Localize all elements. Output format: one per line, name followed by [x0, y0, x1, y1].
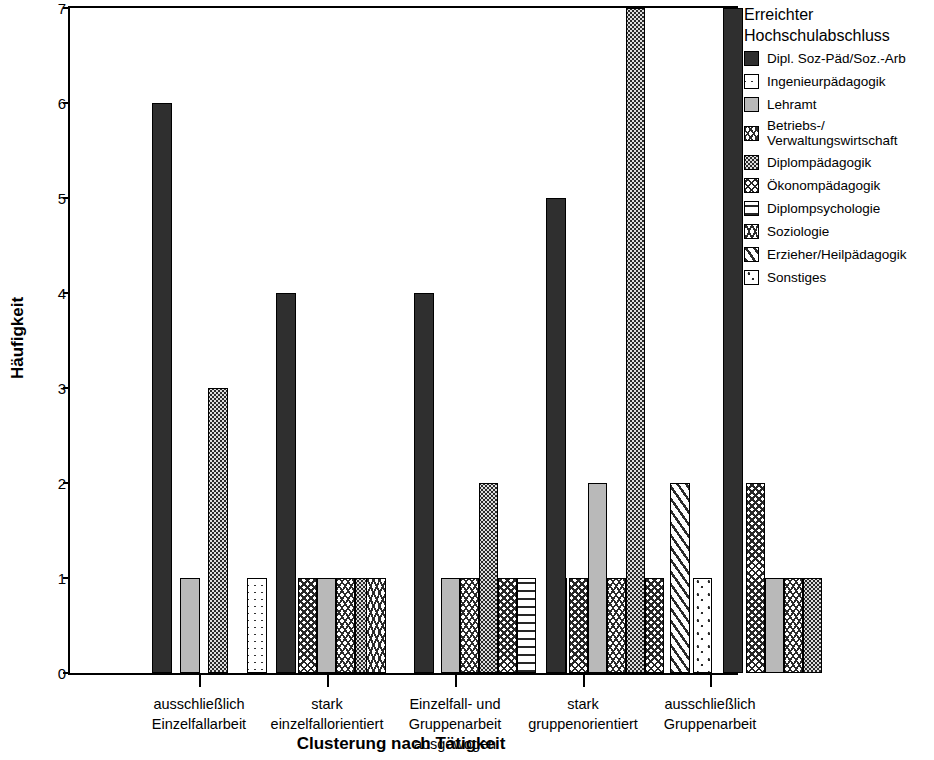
legend-item-sonstiges[interactable]: Sonstiges — [744, 268, 930, 286]
x-tick-mark — [455, 673, 457, 687]
y-tick-mark — [63, 672, 70, 674]
y-tick-label: 5 — [36, 191, 66, 206]
y-tick-label: 7 — [36, 1, 66, 16]
legend-swatch-icon-lehramt — [744, 97, 759, 112]
legend-label: Diplompädagogik — [767, 155, 871, 170]
y-tick-mark — [63, 7, 70, 9]
bar-diplompsychologie-g2 — [517, 578, 536, 673]
bar-betriebs_verwaltung-g1 — [336, 578, 355, 673]
bar-lehramt-g1 — [317, 578, 336, 673]
legend-entries: Dipl. Soz-Päd/Soz.-ArbIngenieurpädagogik… — [744, 49, 930, 286]
legend-label: Ökonompädagogik — [767, 178, 880, 193]
chart-root: 01234567 ausschließlich Einzelfallarbeit… — [0, 0, 934, 760]
legend-label: Lehramt — [767, 97, 817, 112]
legend-item-ingenieurpaedagogik[interactable]: Ingenieurpädagogik — [744, 72, 930, 90]
y-tick-mark — [63, 197, 70, 199]
legend-swatch-icon-diplompaedagogik — [744, 155, 759, 170]
y-tick-label: 2 — [36, 476, 66, 491]
legend-title: Erreichter Hochschulabschluss — [744, 4, 930, 46]
bar-betriebs_verwaltung-g3 — [607, 578, 626, 673]
legend-swatch-icon-soziologie — [744, 224, 759, 239]
y-tick-mark — [63, 102, 70, 104]
bar-lehramt-g4 — [765, 578, 784, 673]
bar-diplompaedagogik-g0 — [208, 388, 228, 673]
bar-dipl_soz_paed-g1 — [276, 293, 296, 673]
bar-betriebs_verwaltung-g2 — [460, 578, 479, 673]
bar-dipl_soz_paed-g4 — [723, 8, 743, 673]
legend-label: Erzieher/Heilpädagogik — [767, 247, 907, 262]
bar-lehramt-g2 — [441, 578, 460, 673]
legend-swatch-icon-sonstiges — [744, 270, 759, 285]
bar-oekonompaedagogik-g3 — [569, 578, 588, 673]
plot-area: 01234567 ausschließlich Einzelfallarbeit… — [70, 8, 736, 673]
legend-item-betriebs_verwaltung[interactable]: Betriebs-/ Verwaltungswirtschaft — [744, 118, 930, 148]
y-tick-label: 1 — [36, 571, 66, 586]
bar-betriebs_verwaltung-g4 — [784, 578, 803, 673]
x-axis-label: Clusterung nach Tätigkeit — [297, 734, 506, 754]
y-tick-mark — [63, 482, 70, 484]
legend-item-oekonompaedagogik[interactable]: Ökonompädagogik — [744, 176, 930, 194]
legend-label: Diplompsychologie — [767, 201, 880, 216]
legend-swatch-icon-diplompsychologie — [744, 201, 759, 216]
bar-diplompaedagogik-g3 — [626, 8, 645, 673]
legend-swatch-icon-oekonompaedagogik — [744, 178, 759, 193]
y-tick-mark — [63, 577, 70, 579]
bar-sonstiges-g3 — [693, 578, 712, 673]
legend-item-lehramt[interactable]: Lehramt — [744, 95, 930, 113]
bar-dipl_soz_paed-g0 — [152, 103, 172, 673]
x-tick-mark — [327, 673, 329, 687]
bar-oekonompaedagogik-g1 — [298, 578, 317, 673]
legend-label: Soziologie — [767, 224, 829, 239]
bar-oekonompaedagogik-g4 — [746, 483, 765, 673]
legend-swatch-icon-dipl_soz_paed — [744, 51, 759, 66]
legend-label: Dipl. Soz-Päd/Soz.-Arb — [767, 51, 906, 66]
legend-item-erzieher_heilpaedagogik[interactable]: Erzieher/Heilpädagogik — [744, 245, 930, 263]
x-tick-mark — [583, 673, 585, 687]
legend-swatch-icon-erzieher_heilpaedagogik — [744, 247, 759, 262]
legend-item-diplompsychologie[interactable]: Diplompsychologie — [744, 199, 930, 217]
y-tick-label: 6 — [36, 96, 66, 111]
legend-swatch-icon-betriebs_verwaltung — [744, 126, 759, 141]
legend-item-soziologie[interactable]: Soziologie — [744, 222, 930, 240]
y-tick-mark — [63, 292, 70, 294]
bar-lehramt-g0 — [180, 578, 200, 673]
bar-ingenieurpaedagogik-g1 — [247, 578, 267, 673]
y-tick-mark — [63, 387, 70, 389]
bar-oekonompaedagogik2-g3 — [645, 578, 664, 673]
legend-label: Ingenieurpädagogik — [767, 74, 886, 89]
legend-swatch-icon-ingenieurpaedagogik — [744, 74, 759, 89]
bar-oekonompaedagogik-g2 — [498, 578, 517, 673]
y-tick-label: 4 — [36, 286, 66, 301]
x-tick-mark — [199, 673, 201, 687]
x-tick-label: ausschließlich Gruppenarbeit — [625, 694, 795, 734]
bar-dipl_soz_paed-g3 — [546, 198, 566, 673]
y-tick-label: 0 — [36, 666, 66, 681]
bar-lehramt-g3 — [588, 483, 607, 673]
legend-label: Betriebs-/ Verwaltungswirtschaft — [767, 118, 898, 148]
y-tick-label: 3 — [36, 381, 66, 396]
x-tick-mark — [710, 673, 712, 687]
bar-soziologie-g1 — [366, 578, 386, 673]
legend: Erreichter Hochschulabschluss Dipl. Soz-… — [744, 4, 930, 291]
legend-label: Sonstiges — [767, 270, 826, 285]
bar-dipl_soz_paed-g2 — [414, 293, 434, 673]
y-axis-label: Häufigkeit — [8, 297, 28, 379]
bar-erzieher_heilpaedagogik-g3 — [670, 483, 690, 673]
legend-item-diplompaedagogik[interactable]: Diplompädagogik — [744, 153, 930, 171]
bar-diplompaedagogik-g4 — [803, 578, 822, 673]
bar-diplompaedagogik-g2 — [479, 483, 498, 673]
legend-item-dipl_soz_paed[interactable]: Dipl. Soz-Päd/Soz.-Arb — [744, 49, 930, 67]
